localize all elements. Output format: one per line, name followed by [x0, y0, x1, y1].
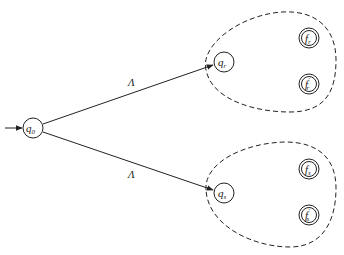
final-state-fs: fs	[299, 159, 319, 179]
state-q0: q0	[23, 118, 43, 138]
state-qs: qs	[214, 183, 234, 203]
nfa-diagram: Λ Λ q0 qr qs fr f′r fs f′s	[0, 0, 344, 255]
final-state-fr: fr	[299, 28, 319, 48]
final-state-fr-prime: f′r	[299, 74, 319, 94]
edge-q0-qs	[43, 132, 213, 190]
edge-label-q0-qr: Λ	[127, 76, 135, 88]
edge-q0-qr	[43, 65, 213, 124]
edge-label-q0-qs: Λ	[127, 168, 135, 180]
final-state-fs-prime: f′s	[299, 205, 319, 225]
state-qr: qr	[214, 52, 234, 72]
svg-text:f′s: f′s	[305, 207, 310, 223]
svg-text:f′r: f′r	[305, 76, 310, 92]
